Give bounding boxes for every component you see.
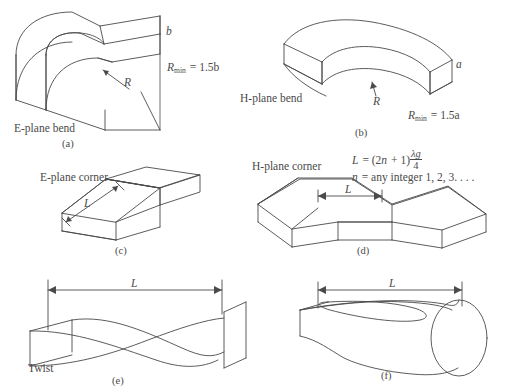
waveguide-components-figure [0, 0, 514, 392]
formula-L-symbol: L [352, 154, 358, 166]
label-length-L-c: L [84, 198, 90, 210]
label-radius-R-b: R [373, 96, 380, 108]
panel-f-transition-drawing [300, 282, 487, 376]
formula-equals-open: = (2 [362, 154, 381, 166]
panel-a-e-plane-bend-drawing [16, 12, 160, 130]
label-length-L-f: L [389, 278, 395, 290]
panel-e-twist-drawing [30, 280, 246, 369]
panel-label-a: (a) [62, 139, 74, 150]
formula-n-symbol-2: n [352, 171, 358, 183]
label-e-plane-bend: E-plane bend [14, 123, 75, 135]
rmin-equation-a: = 1.5b [190, 61, 220, 73]
formula-rmin-h-plane: Rmin = 1.5a [408, 106, 460, 122]
panel-label-f: (f) [381, 371, 392, 382]
formula-n-integer-note: n = any integer 1, 2, 3. . . . [352, 168, 474, 184]
rmin-symbol-a: R [167, 61, 174, 73]
label-dimension-a: a [456, 59, 462, 71]
label-twist: Twist [28, 363, 53, 375]
panel-label-d: (d) [357, 246, 369, 257]
formula-integer-text: = any integer 1, 2, 3. . . . [362, 171, 475, 183]
label-length-L-e: L [131, 278, 137, 290]
panel-d-h-plane-corner-drawing [258, 178, 486, 248]
rmin-subscript-a: min [174, 66, 186, 75]
panel-b-h-plane-bend-drawing [284, 20, 452, 104]
label-h-plane-corner: H-plane corner [252, 161, 321, 173]
rmin-symbol-b: R [408, 109, 415, 121]
label-h-plane-bend: H-plane bend [240, 93, 302, 105]
panel-label-b: (b) [355, 128, 367, 139]
rmin-equation-b: = 1.5a [431, 109, 460, 121]
label-e-plane-corner: E-plane corner [40, 172, 108, 184]
label-dimension-b: b [166, 26, 172, 38]
panel-label-e: (e) [112, 376, 124, 387]
label-radius-R-a: R [124, 77, 131, 89]
rmin-subscript-b: min [415, 114, 427, 123]
label-length-L-d: L [345, 184, 351, 196]
panel-label-c: (c) [115, 246, 127, 257]
formula-n-symbol: n [381, 154, 387, 166]
formula-rmin-e-plane: Rmin = 1.5b [167, 58, 219, 74]
formula-plus-one: + 1) [391, 154, 410, 166]
formula-numerator: λg [410, 148, 422, 159]
